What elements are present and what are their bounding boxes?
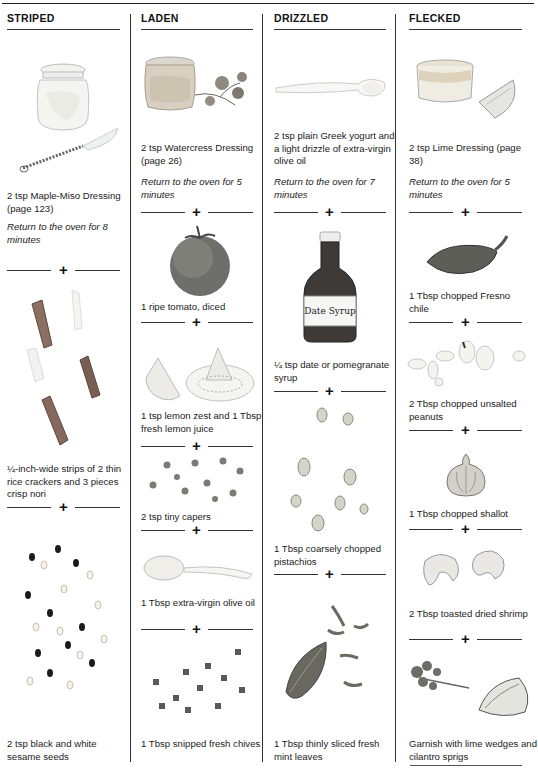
step-text: 1 Tbsp chopped Fresno chile xyxy=(409,290,529,315)
mint-leaves-illustration xyxy=(282,596,382,706)
step-text: 2 Tbsp toasted dried shrimp xyxy=(409,608,529,621)
step-text: 1 tsp lemon zest and 1 Tbsp fresh lemon … xyxy=(141,410,266,435)
column-heading: STRIPED xyxy=(7,12,55,24)
column-striped: STRIPED 2 tsp Maple-Miso Dressing (page … xyxy=(0,0,130,768)
bottle-label: Date Syrup xyxy=(304,306,356,316)
column-heading: DRIZZLED xyxy=(274,12,328,24)
chile-illustration xyxy=(423,232,513,282)
step-text: 2 tsp black and white sesame seeds xyxy=(7,738,127,763)
column-laden: LADEN 2 tsp Watercress Dressing (page 26… xyxy=(130,0,262,768)
column-flecked: FLECKED 2 tsp Lime Dressing (page 38) Re… xyxy=(395,0,538,768)
step-text: 1 Tbsp coarsely chopped pistachios xyxy=(274,543,394,568)
step-text: ¼-inch-wide strips of 2 thin rice cracke… xyxy=(7,463,129,501)
plus-divider: + xyxy=(274,206,386,218)
plus-divider: + xyxy=(141,623,253,635)
step-text: Garnish with lime wedges and cilantro sp… xyxy=(409,738,537,763)
date-syrup-bottle-illustration: Date Syrup xyxy=(300,230,360,345)
step-text: 2 tsp Lime Dressing (page 38) xyxy=(409,142,529,167)
plus-divider: + xyxy=(409,206,522,218)
plus-divider: + xyxy=(7,264,120,276)
plus-divider: + xyxy=(141,440,253,452)
tomato-illustration xyxy=(165,224,235,299)
heading-rule xyxy=(274,29,386,30)
jar-and-watercress-illustration xyxy=(140,55,260,115)
step-text: 1 ripe tomato, diced xyxy=(141,301,261,314)
spoon-illustration xyxy=(272,66,392,106)
dried-shrimp-illustration xyxy=(419,545,509,595)
peanuts-illustration xyxy=(407,340,527,390)
plus-divider: + xyxy=(141,524,253,536)
step-text: 2 tsp Maple-Miso Dressing (page 123) xyxy=(7,190,127,215)
chives-illustration xyxy=(145,645,250,720)
column-drizzled: DRIZZLED 2 tsp plain Greek yogurt and a … xyxy=(262,0,395,768)
oven-instruction: Return to the oven for 5 minutes xyxy=(409,176,529,201)
heading-rule xyxy=(409,29,522,30)
plus-divider: + xyxy=(409,633,522,645)
plus-divider: + xyxy=(409,424,522,436)
sesame-seeds-illustration xyxy=(20,535,120,695)
step-text: 1 Tbsp chopped shallot xyxy=(409,508,534,521)
step-text: ¼ tsp date or pomegranate syrup xyxy=(274,359,394,384)
plus-divider: + xyxy=(409,316,522,328)
lemon-and-juicer-illustration xyxy=(140,338,255,408)
nori-strips-illustration xyxy=(22,290,112,450)
step-text: 2 tsp plain Greek yogurt and a light dri… xyxy=(274,130,396,168)
jar-and-whisk-illustration xyxy=(18,58,118,178)
plus-divider: + xyxy=(409,523,522,535)
step-text: 1 Tbsp thinly sliced fresh mint leaves xyxy=(274,738,396,763)
heading-rule xyxy=(7,29,120,30)
heading-rule xyxy=(141,29,253,30)
shallot-illustration xyxy=(441,450,491,500)
spoon-illustration xyxy=(142,552,257,584)
column-heading: FLECKED xyxy=(409,12,461,24)
step-text: 2 tsp Watercress Dressing (page 26) xyxy=(141,142,261,167)
step-text: 2 Tbsp chopped unsalted peanuts xyxy=(409,398,529,423)
plus-divider: + xyxy=(141,316,253,328)
pistachios-illustration xyxy=(282,405,382,535)
step-text: 1 Tbsp snipped fresh chives xyxy=(141,738,261,751)
cilantro-and-lime-illustration xyxy=(409,658,534,723)
oven-instruction: Return to the oven for 8 minutes xyxy=(7,221,127,246)
step-text: 1 Tbsp extra-virgin olive oil xyxy=(141,597,261,610)
plus-divider: + xyxy=(274,568,386,580)
step-text: 2 tsp tiny capers xyxy=(141,511,261,524)
oven-instruction: Return to the oven for 7 minutes xyxy=(274,176,394,201)
ramekin-and-lime-illustration xyxy=(411,58,521,123)
column-heading: LADEN xyxy=(141,12,179,24)
plus-divider: + xyxy=(7,501,120,513)
plus-divider: + xyxy=(274,385,386,397)
capers-illustration xyxy=(145,455,250,505)
plus-divider: + xyxy=(141,206,253,218)
oven-instruction: Return to the oven for 5 minutes xyxy=(141,176,261,201)
